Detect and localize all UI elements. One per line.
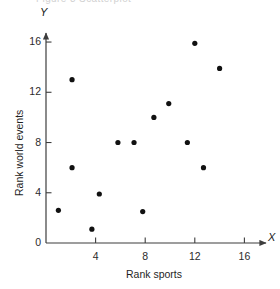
y-tick-label: 0 — [23, 236, 41, 248]
data-point — [201, 165, 206, 170]
y-axis-title: Rank world events — [13, 110, 25, 196]
x-axis-title: Rank sports — [126, 268, 182, 280]
axes-lines — [46, 33, 266, 243]
scatterplot-canvas — [0, 0, 280, 289]
data-point — [69, 77, 74, 82]
data-points — [56, 41, 222, 232]
data-point — [166, 101, 171, 106]
data-point — [217, 66, 222, 71]
x-tick-label: 4 — [87, 250, 105, 262]
x-axis-letter: X — [268, 231, 275, 243]
data-point — [97, 191, 102, 196]
scatterplot-figure: Figure 3 Scatterplot 0 4 8 12 16 4 8 12 … — [0, 0, 280, 289]
data-point — [151, 115, 156, 120]
y-axis-letter: Y — [40, 6, 47, 18]
y-tick-label: 16 — [23, 35, 41, 47]
data-point — [131, 140, 136, 145]
y-tick-label: 8 — [23, 136, 41, 148]
data-point — [140, 209, 145, 214]
x-tick-label: 12 — [186, 250, 204, 262]
y-tick-label: 12 — [23, 85, 41, 97]
axis-ticks — [46, 42, 244, 243]
data-point — [185, 140, 190, 145]
data-point — [115, 140, 120, 145]
data-point — [89, 227, 94, 232]
x-tick-label: 8 — [136, 250, 154, 262]
data-point — [192, 41, 197, 46]
data-point — [69, 165, 74, 170]
x-tick-label: 16 — [235, 250, 253, 262]
data-point — [56, 208, 61, 213]
y-tick-label: 4 — [23, 186, 41, 198]
